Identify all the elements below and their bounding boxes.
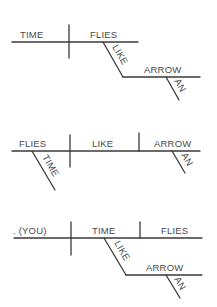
label-object: ARROW xyxy=(154,138,191,149)
label-subject: . (YOU) xyxy=(13,225,47,236)
diagram-time-flies-like-an-arrow: TIME FLIES LIKE ARROW AN xyxy=(12,25,200,100)
label-verb: LIKE xyxy=(92,138,113,149)
label-preposition: LIKE xyxy=(110,43,130,67)
label-subject: FLIES xyxy=(19,138,46,149)
label-prep-object: ARROW xyxy=(146,262,183,273)
label-verb: FLIES xyxy=(90,29,117,40)
sentence-diagrams: TIME FLIES LIKE ARROW AN FLIES TIME LIKE… xyxy=(0,0,217,307)
label-modifier: TIME xyxy=(40,153,61,179)
label-object: ARROW xyxy=(144,64,181,75)
label-article: AN xyxy=(179,151,195,168)
label-preposition: LIKE xyxy=(112,239,132,263)
label-verb: TIME xyxy=(92,225,116,236)
diagram-you-time-flies-like-an-arrow: . (YOU) TIME FLIES LIKE ARROW AN xyxy=(13,222,202,298)
label-subject: TIME xyxy=(20,29,44,40)
diagram-flies-like-an-arrow: FLIES TIME LIKE ARROW AN xyxy=(12,133,200,190)
label-object: FLIES xyxy=(161,225,188,236)
